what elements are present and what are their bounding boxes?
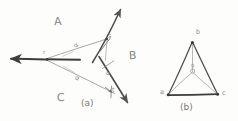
region-label-c: C — [57, 92, 65, 103]
angle-arc-upper — [62, 52, 74, 57]
region-label-a: A — [54, 16, 62, 27]
drop-line-from-s — [105, 40, 107, 61]
spoke-o-c — [194, 73, 217, 94]
vector-through-s-northeast — [93, 10, 121, 63]
vector-through-t-southeast — [99, 57, 128, 103]
point-label-s: s — [108, 33, 111, 40]
point-label-t: t — [112, 87, 115, 94]
spoke-o-a — [169, 73, 192, 94]
vertex-label-c: c — [222, 90, 226, 97]
edge-b-c — [193, 43, 218, 95]
vertex-b-dot — [191, 41, 194, 44]
region-label-b: B — [129, 50, 137, 61]
vector-r-east-stub — [48, 59, 81, 60]
diagram-a-vectors — [11, 10, 128, 103]
vertex-label-a: a — [160, 89, 164, 96]
diagram-b-triangle — [167, 41, 219, 96]
center-label-o: o — [191, 63, 194, 69]
caption-a: (a) — [81, 99, 94, 108]
vertex-label-b: b — [196, 29, 200, 36]
caption-b: (b) — [180, 103, 193, 112]
vertex-a-dot — [167, 93, 170, 96]
point-r-dot — [46, 58, 49, 61]
edge-a-b — [169, 43, 193, 95]
point-label-r: r — [43, 50, 45, 56]
vector-r-west — [11, 59, 47, 60]
sketch-vector-layer — [0, 0, 238, 121]
edge-a-c — [168, 94, 218, 95]
sketch-canvas: A B C r s t α α α (a) a b c o (b) — [0, 0, 238, 121]
vertex-c-dot — [216, 93, 219, 96]
